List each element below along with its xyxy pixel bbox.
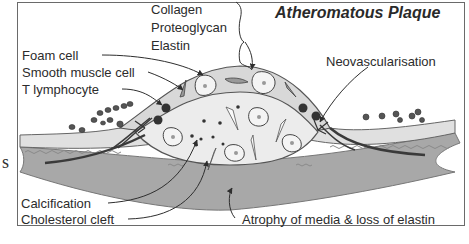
label-foam-cell: Foam cell [22, 48, 78, 63]
label-collagen: Collagen [151, 2, 202, 17]
label-smooth-muscle-cell: Smooth muscle cell [22, 65, 135, 80]
red-blood-cells-right [363, 109, 425, 123]
label-atrophy-media: Atrophy of media & loss of elastin [242, 212, 435, 227]
matrix-brace [236, 2, 252, 70]
label-neovascularisation: Neovascularisation [326, 54, 436, 69]
label-calcification: Calcification [21, 196, 91, 211]
diagram-title: Atheromatous Plaque [275, 4, 440, 22]
label-cholesterol-cleft: Cholesterol cleft [21, 212, 114, 227]
label-t-lymphocyte: T lymphocyte [22, 82, 99, 97]
label-elastin: Elastin [151, 38, 190, 53]
leader-neovascularisation [320, 67, 368, 122]
label-proteoglycan: Proteoglycan [151, 20, 227, 35]
leader-matrix [245, 42, 252, 69]
cropped-side-letter: s [2, 152, 9, 173]
